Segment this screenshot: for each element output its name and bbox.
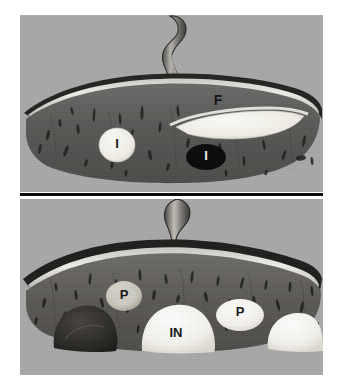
label-I-black: I xyxy=(204,148,208,163)
label-I-white: I xyxy=(115,136,119,151)
label-F: F xyxy=(214,92,223,108)
lower-specimen-photo: P IN P xyxy=(20,199,323,375)
label-P-right: P xyxy=(236,304,245,319)
lower-specimen-graphic: P IN P xyxy=(20,199,323,375)
upper-specimen-photo: F I I xyxy=(20,15,323,192)
label-P-left: P xyxy=(120,287,129,302)
upper-specimen-graphic: F I I xyxy=(20,15,323,192)
label-IN: IN xyxy=(170,325,183,340)
figure-root: F I I xyxy=(0,0,342,392)
panel-divider-rule xyxy=(20,193,323,196)
